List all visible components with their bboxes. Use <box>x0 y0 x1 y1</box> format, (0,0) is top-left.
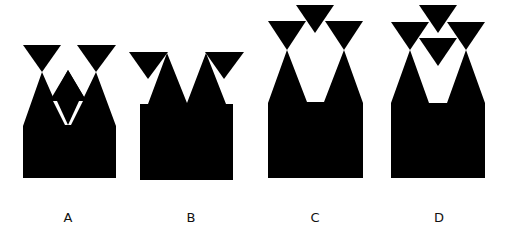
figure-d[interactable] <box>391 5 485 178</box>
label-b: B <box>181 210 201 225</box>
figure-b[interactable] <box>129 52 244 180</box>
triangle-right-top <box>77 45 116 72</box>
body <box>391 50 485 178</box>
body <box>140 53 233 180</box>
label-c: C <box>305 210 325 225</box>
figure-c[interactable] <box>268 5 363 178</box>
label-a: A <box>58 210 78 225</box>
triangle-top <box>296 5 334 33</box>
figure-options <box>0 0 505 241</box>
triangle-right <box>447 22 485 50</box>
triangle-left-top <box>23 45 61 72</box>
triangle-left <box>268 21 306 50</box>
triangle-top <box>419 5 457 33</box>
triangle-left <box>391 22 429 50</box>
figure-a[interactable] <box>23 45 116 178</box>
label-d: D <box>429 210 449 225</box>
triangle-right <box>325 21 363 50</box>
body <box>268 50 363 178</box>
triangle-middle <box>419 38 457 66</box>
